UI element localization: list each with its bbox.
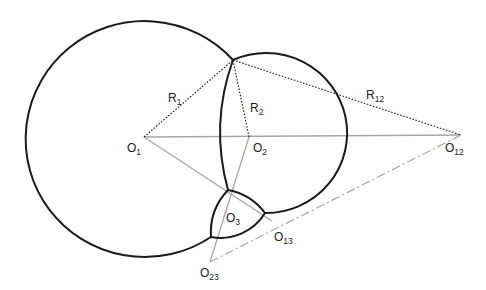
label-o1: O1 [127,141,141,157]
label-o12: O12 [445,141,464,157]
bubble-arcs [26,21,347,257]
arc-interface-12 [220,60,233,190]
label-o2: O2 [253,141,267,157]
line-o1-o12 [144,135,461,137]
arc-circle-2 [233,53,347,213]
bubble-geometry-diagram: R1 R2 R12 O1 O2 O3 O12 O13 O23 [0,0,486,290]
dashdot-line-o23-o12 [210,135,461,262]
label-o3: O3 [226,211,240,227]
label-o23: O23 [200,266,219,282]
label-r1: R1 [168,91,182,107]
label-r2: R2 [250,101,264,117]
label-r12: R12 [366,88,384,104]
radius-lines [144,60,461,137]
center-lines [144,135,461,262]
radius-r2 [233,60,249,137]
arc-interface-23 [228,190,265,213]
line-o2-o23 [210,137,249,262]
arc-circle-1 [26,21,233,257]
label-o13: O13 [274,230,293,246]
